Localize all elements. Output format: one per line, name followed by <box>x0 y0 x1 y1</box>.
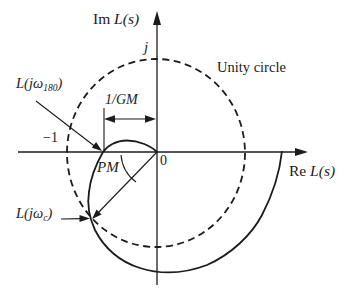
imag-axis-label: Im L(s) <box>93 10 139 27</box>
phase-margin-label: PM <box>97 159 119 176</box>
nyquist-margin-figure: Im L(s) Re L(s) j 0 −1 Unity circle 1/GM… <box>0 0 349 301</box>
phase-margin-arc <box>121 155 136 182</box>
l-omega-c-label: L(jωc) <box>16 206 52 223</box>
unity-circle-label: Unity circle <box>217 60 286 76</box>
minus-one-label: −1 <box>43 130 58 145</box>
real-axis-arrow-icon <box>295 148 308 156</box>
j-tick-label: j <box>144 39 148 56</box>
l-omega-180-label: L(jω180) <box>16 76 62 93</box>
gm-arrow-left-icon <box>104 115 115 122</box>
real-axis-label: Re L(s) <box>289 162 335 179</box>
lc-arrow-icon <box>80 215 91 222</box>
gain-margin-label: 1/GM <box>105 92 138 107</box>
gm-arrow-right-icon <box>145 115 156 122</box>
l180-arrow-icon <box>92 142 102 151</box>
origin-label: 0 <box>160 153 167 168</box>
imag-axis-arrow-icon <box>153 11 161 25</box>
figure-canvas <box>0 0 349 301</box>
